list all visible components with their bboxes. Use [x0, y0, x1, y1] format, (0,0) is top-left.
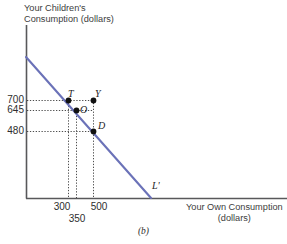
y-axis-label-line2: Consumption (dollars) — [24, 14, 114, 24]
y-axis-label-line1: Your Children's — [24, 3, 86, 13]
point-label-T: T — [68, 88, 74, 99]
point-D — [91, 129, 97, 135]
figure-caption: (b) — [0, 226, 287, 236]
x-axis-label-line2: (dollars) — [186, 213, 283, 224]
y-tick-645-label: 645 — [7, 104, 24, 115]
point-label-O: O — [80, 104, 87, 115]
point-label-Y: Y — [95, 88, 101, 99]
x-tick-500-label: 500 — [91, 201, 108, 212]
y-axis-label: Your Children's Consumption (dollars) — [24, 3, 114, 25]
x-tick-300-label: 300 — [54, 201, 71, 212]
figure-panel-b: Your Children's Consumption (dollars) Yo… — [0, 0, 287, 244]
x-axis-label: Your Own Consumption (dollars) — [186, 202, 283, 224]
budget-line — [26, 57, 151, 198]
x-axis-label-line1: Your Own Consumption — [186, 202, 283, 212]
point-label-D: D — [98, 120, 105, 131]
budget-line-label: L' — [152, 180, 160, 191]
x-tick-350-label: 350 — [69, 213, 86, 224]
point-O — [74, 108, 80, 114]
y-tick-480-label: 480 — [7, 125, 24, 136]
